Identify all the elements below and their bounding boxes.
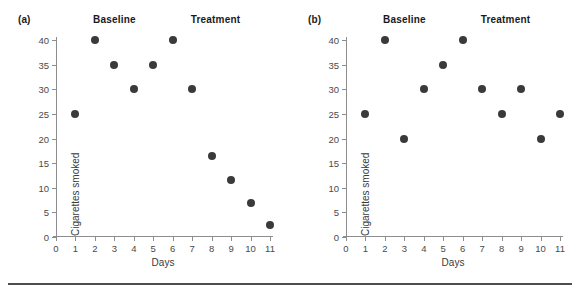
x-tick bbox=[365, 237, 366, 241]
x-tick-label: 2 bbox=[382, 243, 387, 254]
x-tick-label: 6 bbox=[170, 243, 175, 254]
y-axis-title-b: Cigarettes smoked bbox=[360, 153, 371, 236]
x-tick bbox=[153, 237, 154, 241]
phase-label-baseline: Baseline bbox=[383, 14, 426, 25]
phase-label-treatment: Treatment bbox=[191, 14, 241, 25]
data-point bbox=[188, 85, 196, 93]
x-tick bbox=[251, 237, 252, 241]
y-tick bbox=[52, 188, 56, 189]
x-tick-label: 5 bbox=[151, 243, 156, 254]
y-tick-label: 25 bbox=[328, 108, 339, 119]
data-point bbox=[149, 61, 157, 69]
panel-a: (a) Cigarettes smoked Days 0510152025303… bbox=[0, 0, 290, 270]
x-tick bbox=[541, 237, 542, 241]
y-axis-line-b bbox=[346, 37, 347, 240]
x-tick bbox=[521, 237, 522, 241]
y-tick bbox=[52, 40, 56, 41]
data-point bbox=[400, 135, 408, 143]
x-tick bbox=[270, 237, 271, 241]
x-tick bbox=[134, 237, 135, 241]
x-tick bbox=[56, 237, 57, 241]
x-axis-line-a bbox=[53, 236, 273, 237]
data-point bbox=[439, 61, 447, 69]
y-tick-label: 15 bbox=[38, 158, 49, 169]
y-tick-label: 0 bbox=[44, 232, 49, 243]
y-tick bbox=[342, 40, 346, 41]
x-tick-label: 9 bbox=[518, 243, 523, 254]
x-tick bbox=[173, 237, 174, 241]
x-axis-line-b bbox=[343, 236, 563, 237]
x-axis-title-a: Days bbox=[152, 257, 175, 268]
x-tick bbox=[482, 237, 483, 241]
phase-label-treatment: Treatment bbox=[481, 14, 531, 25]
data-point bbox=[517, 85, 525, 93]
y-tick bbox=[342, 114, 346, 115]
data-point bbox=[130, 85, 138, 93]
x-tick bbox=[231, 237, 232, 241]
y-tick-label: 15 bbox=[328, 158, 339, 169]
y-tick bbox=[52, 114, 56, 115]
x-tick-label: 10 bbox=[535, 243, 546, 254]
panel-b: (b) Cigarettes smoked Days 0510152025303… bbox=[290, 0, 580, 270]
x-tick bbox=[463, 237, 464, 241]
x-tick-label: 11 bbox=[265, 243, 275, 254]
x-tick bbox=[502, 237, 503, 241]
y-tick bbox=[342, 188, 346, 189]
data-point bbox=[208, 152, 216, 160]
data-point bbox=[420, 85, 428, 93]
x-tick bbox=[212, 237, 213, 241]
x-tick-label: 3 bbox=[112, 243, 117, 254]
y-tick bbox=[342, 89, 346, 90]
data-point bbox=[478, 85, 486, 93]
y-tick-label: 20 bbox=[38, 133, 49, 144]
data-point bbox=[361, 110, 369, 118]
x-tick-label: 4 bbox=[131, 243, 136, 254]
data-point bbox=[110, 61, 118, 69]
x-tick-label: 1 bbox=[363, 243, 368, 254]
x-tick bbox=[95, 237, 96, 241]
x-tick-label: 10 bbox=[245, 243, 256, 254]
y-tick bbox=[52, 212, 56, 213]
panel-label-a: (a) bbox=[18, 14, 31, 25]
y-tick bbox=[342, 163, 346, 164]
x-tick-label: 7 bbox=[190, 243, 195, 254]
x-tick-label: 8 bbox=[499, 243, 504, 254]
data-point bbox=[91, 36, 99, 44]
x-tick-label: 1 bbox=[73, 243, 78, 254]
y-tick-label: 30 bbox=[38, 84, 49, 95]
x-tick bbox=[192, 237, 193, 241]
x-tick bbox=[385, 237, 386, 241]
y-tick-label: 0 bbox=[334, 232, 339, 243]
data-point bbox=[498, 110, 506, 118]
data-point bbox=[556, 110, 564, 118]
x-tick bbox=[443, 237, 444, 241]
data-point bbox=[537, 135, 545, 143]
x-tick bbox=[346, 237, 347, 241]
y-tick bbox=[52, 65, 56, 66]
y-axis-title-a: Cigarettes smoked bbox=[70, 153, 81, 236]
y-tick bbox=[342, 65, 346, 66]
x-tick bbox=[114, 237, 115, 241]
y-tick bbox=[52, 139, 56, 140]
x-tick-label: 6 bbox=[460, 243, 465, 254]
x-tick-label: 5 bbox=[441, 243, 446, 254]
x-tick bbox=[560, 237, 561, 241]
data-point bbox=[381, 36, 389, 44]
data-point bbox=[71, 110, 79, 118]
x-axis-title-b: Days bbox=[442, 257, 465, 268]
plot-area-b: Cigarettes smoked Days 05101520253035400… bbox=[346, 40, 560, 237]
y-tick-label: 10 bbox=[38, 182, 49, 193]
x-tick-label: 3 bbox=[402, 243, 407, 254]
x-tick-label: 0 bbox=[53, 243, 58, 254]
y-axis-line-a bbox=[56, 37, 57, 240]
data-point bbox=[227, 176, 235, 184]
data-point bbox=[247, 199, 255, 207]
panel-label-b: (b) bbox=[308, 14, 321, 25]
y-tick bbox=[342, 212, 346, 213]
y-tick-label: 35 bbox=[38, 59, 49, 70]
plot-area-a: Cigarettes smoked Days 05101520253035400… bbox=[56, 40, 270, 237]
y-tick-label: 5 bbox=[334, 207, 339, 218]
y-tick-label: 40 bbox=[38, 35, 49, 46]
y-tick bbox=[52, 163, 56, 164]
data-point bbox=[266, 221, 274, 229]
